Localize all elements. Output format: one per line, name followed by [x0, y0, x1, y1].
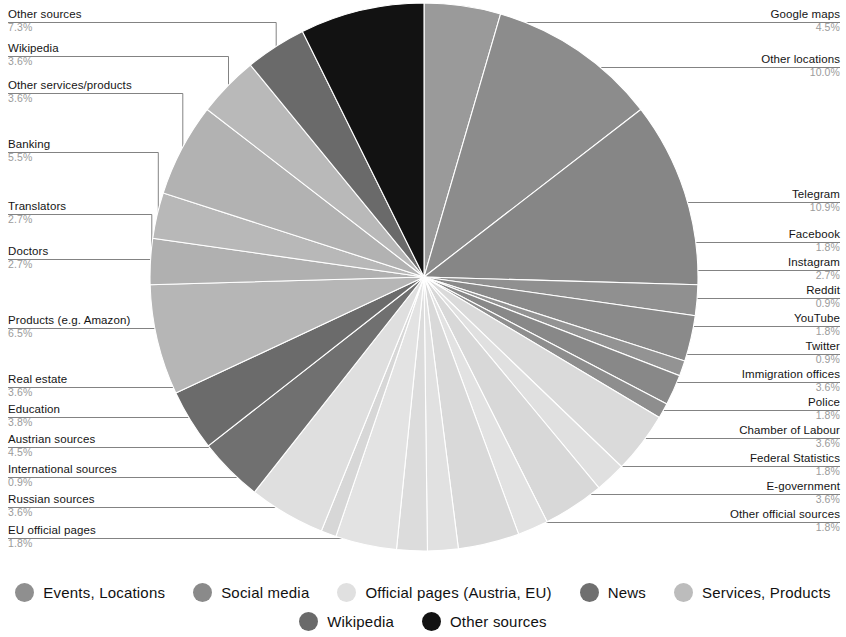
- pie-label-name: Products (e.g. Amazon): [8, 314, 130, 327]
- pie-label-name: Other sources: [8, 8, 82, 21]
- pie-label-name: Google maps: [771, 8, 841, 21]
- pie-label: YouTube1.8%: [794, 312, 840, 338]
- pie-label-name: Facebook: [789, 228, 840, 241]
- pie-label-name: Education: [8, 403, 60, 416]
- pie-label-percent: 1.8%: [808, 409, 840, 422]
- legend-item[interactable]: Social media: [193, 583, 309, 602]
- legend-item[interactable]: Events, Locations: [15, 583, 165, 602]
- pie-label-percent: 2.7%: [8, 213, 66, 226]
- legend-item[interactable]: Services, Products: [674, 583, 831, 602]
- pie-label-percent: 1.8%: [794, 325, 840, 338]
- pie-label-name: Other official sources: [730, 508, 840, 521]
- pie-label-percent: 1.8%: [8, 537, 96, 550]
- pie-label: Other locations10.0%: [761, 53, 840, 79]
- legend-item-label: Official pages (Austria, EU): [365, 584, 551, 601]
- pie-label-name: E-government: [767, 480, 840, 493]
- pie-label-percent: 3.6%: [767, 493, 840, 506]
- pie-label-name: YouTube: [794, 312, 840, 325]
- pie-label: Doctors2.7%: [8, 245, 48, 271]
- pie-label-name: Banking: [8, 138, 50, 151]
- pie-label-name: Austrian sources: [8, 433, 95, 446]
- pie-label: Wikipedia3.6%: [8, 42, 59, 68]
- pie-label-name: Police: [808, 396, 840, 409]
- legend-swatch-icon: [422, 612, 441, 631]
- pie-label-name: Immigration offices: [742, 368, 840, 381]
- pie-label: Products (e.g. Amazon)6.5%: [8, 314, 130, 340]
- chart-area: Other sources7.3%Wikipedia3.6%Other serv…: [0, 0, 846, 575]
- pie-label: Banking5.5%: [8, 138, 50, 164]
- pie-label-percent: 3.6%: [8, 506, 95, 519]
- legend-item[interactable]: News: [580, 583, 646, 602]
- pie-label-percent: 1.8%: [750, 465, 840, 478]
- pie-label: Russian sources3.6%: [8, 493, 95, 519]
- pie-label-percent: 5.5%: [8, 151, 50, 164]
- legend-row-primary: Events, LocationsSocial mediaOfficial pa…: [0, 578, 846, 607]
- pie-label-name: Doctors: [8, 245, 48, 258]
- pie-label-percent: 3.6%: [742, 381, 840, 394]
- pie-label-name: International sources: [8, 463, 117, 476]
- pie-label-name: Twitter: [805, 340, 840, 353]
- legend-item-label: Events, Locations: [43, 584, 165, 601]
- pie-label-percent: 6.5%: [8, 327, 130, 340]
- pie-label-percent: 3.6%: [8, 92, 132, 105]
- pie-label-percent: 3.6%: [739, 437, 840, 450]
- pie-label: Telegram10.9%: [792, 188, 840, 214]
- pie-label: Education3.8%: [8, 403, 60, 429]
- legend-swatch-icon: [580, 583, 599, 602]
- pie-chart-figure: Other sources7.3%Wikipedia3.6%Other serv…: [0, 0, 846, 637]
- pie-slices-group: [150, 3, 698, 551]
- pie-label: E-government3.6%: [767, 480, 840, 506]
- legend-swatch-icon: [337, 583, 356, 602]
- legend-swatch-icon: [15, 583, 34, 602]
- legend-item-label: Social media: [221, 584, 309, 601]
- pie-label-percent: 2.7%: [788, 269, 840, 282]
- pie-label-percent: 1.8%: [730, 521, 840, 534]
- pie-label: Federal Statistics1.8%: [750, 452, 840, 478]
- legend-item[interactable]: Wikipedia: [299, 612, 394, 631]
- pie-label-percent: 0.9%: [8, 476, 117, 489]
- legend-item-label: Wikipedia: [327, 613, 394, 630]
- pie-label-name: Other services/products: [8, 79, 132, 92]
- pie-label-name: Real estate: [8, 373, 67, 386]
- pie-label-percent: 4.5%: [771, 21, 841, 34]
- pie-label: Other sources7.3%: [8, 8, 82, 34]
- pie-label: Reddit0.9%: [806, 284, 840, 310]
- pie-label-name: Chamber of Labour: [739, 424, 840, 437]
- pie-label: Other official sources1.8%: [730, 508, 840, 534]
- legend-item[interactable]: Other sources: [422, 612, 547, 631]
- legend-item[interactable]: Official pages (Austria, EU): [337, 583, 551, 602]
- pie-label-name: EU official pages: [8, 524, 96, 537]
- pie-label-name: Translators: [8, 200, 66, 213]
- legend-swatch-icon: [674, 583, 693, 602]
- pie-label-name: Reddit: [806, 284, 840, 297]
- pie-label: Facebook1.8%: [789, 228, 840, 254]
- legend-item-label: News: [608, 584, 646, 601]
- pie-label-name: Wikipedia: [8, 42, 59, 55]
- pie-label-percent: 10.9%: [792, 201, 840, 214]
- pie-label-percent: 3.6%: [8, 55, 59, 68]
- pie-label: Police1.8%: [808, 396, 840, 422]
- pie-label-percent: 3.6%: [8, 386, 67, 399]
- pie-label: Translators2.7%: [8, 200, 66, 226]
- pie-label-percent: 3.8%: [8, 416, 60, 429]
- legend-item-label: Other sources: [450, 613, 547, 630]
- pie-label-percent: 2.7%: [8, 258, 48, 271]
- pie-label: International sources0.9%: [8, 463, 117, 489]
- pie-label: Real estate3.6%: [8, 373, 67, 399]
- pie-label-percent: 0.9%: [805, 353, 840, 366]
- pie-label-percent: 7.3%: [8, 21, 82, 34]
- pie-label-percent: 1.8%: [789, 241, 840, 254]
- pie-label: Chamber of Labour3.6%: [739, 424, 840, 450]
- pie-label-name: Instagram: [788, 256, 840, 269]
- legend-swatch-icon: [299, 612, 318, 631]
- pie-label: Austrian sources4.5%: [8, 433, 95, 459]
- pie-label: Immigration offices3.6%: [742, 368, 840, 394]
- pie-label: Google maps4.5%: [771, 8, 841, 34]
- pie-label-name: Other locations: [761, 53, 840, 66]
- pie-label-name: Telegram: [792, 188, 840, 201]
- legend-row-secondary: WikipediaOther sources: [0, 607, 846, 636]
- pie-label-name: Federal Statistics: [750, 452, 840, 465]
- pie-label-percent: 0.9%: [806, 297, 840, 310]
- legend-swatch-icon: [193, 583, 212, 602]
- pie-label: Other services/products3.6%: [8, 79, 132, 105]
